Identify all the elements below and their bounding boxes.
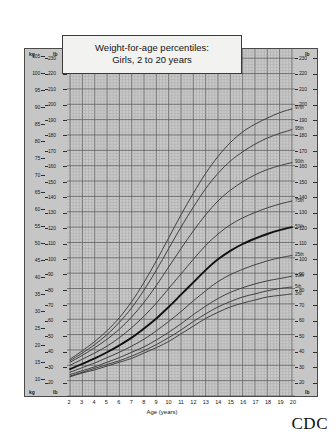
x-tick-4: 4 — [92, 399, 95, 405]
y-axis-unit-kg-top: kg — [29, 52, 35, 57]
y-tick-lb-right-20: 20 — [299, 380, 304, 385]
percentile-label-10th: 10th — [295, 274, 304, 279]
y-tick-kg-80: 80 — [26, 139, 40, 144]
axis-tick-mark — [41, 175, 45, 176]
y-tick-lb-left-110: 110 — [48, 241, 55, 246]
axis-tick-mark — [313, 213, 317, 214]
axis-tick-mark — [313, 259, 317, 260]
axis-tick-mark — [295, 74, 298, 75]
y-axis-unit-lb-left-bottom: lb — [53, 390, 57, 395]
y-tick-kg-40: 40 — [26, 275, 40, 280]
axis-tick-mark — [313, 321, 317, 322]
axis-tick-mark — [313, 228, 317, 229]
axis-tick-mark — [45, 305, 48, 306]
axis-tick-mark — [45, 290, 48, 291]
axis-tick-mark — [45, 336, 48, 337]
y-tick-kg-65: 65 — [26, 190, 40, 195]
axis-tick-mark — [63, 166, 67, 167]
axis-tick-mark — [313, 105, 317, 106]
axis-tick-mark — [45, 367, 48, 368]
y-tick-lb-right-210: 210 — [299, 87, 307, 92]
y-tick-lb-right-70: 70 — [299, 303, 304, 308]
axis-tick-mark — [313, 58, 317, 59]
axis-tick-mark — [45, 383, 48, 384]
axis-tick-mark — [45, 274, 48, 275]
axis-tick-mark — [45, 166, 48, 167]
axis-tick-labels: 1015202530354045505560657075808590951001… — [25, 49, 317, 396]
chart-frame: 1015202530354045505560657075808590951001… — [24, 48, 318, 397]
axis-tick-mark — [295, 367, 298, 368]
axis-tick-mark — [63, 228, 67, 229]
axis-tick-mark — [295, 182, 298, 183]
percentile-label-97th: 97th — [295, 106, 304, 111]
axis-tick-mark — [41, 124, 45, 125]
axis-tick-mark — [63, 336, 67, 337]
y-tick-lb-left-40: 40 — [48, 349, 53, 354]
y-tick-kg-55: 55 — [26, 224, 40, 229]
y-tick-lb-right-150: 150 — [299, 180, 307, 185]
axis-tick-mark — [41, 56, 45, 57]
axis-tick-mark — [41, 328, 45, 329]
x-tick-18: 18 — [265, 399, 271, 405]
x-tick-20: 20 — [290, 399, 296, 405]
y-tick-lb-right-60: 60 — [299, 318, 304, 323]
axis-tick-mark — [295, 305, 298, 306]
percentile-label-5th: 5th — [295, 285, 301, 290]
chart-title-card: Weight-for-age percentiles: Girls, 2 to … — [62, 35, 242, 74]
axis-tick-mark — [41, 226, 45, 227]
y-tick-lb-left-80: 80 — [48, 288, 53, 293]
growth-chart: 1015202530354045505560657075808590951001… — [0, 0, 336, 440]
axis-tick-mark — [63, 105, 67, 106]
axis-tick-mark — [63, 367, 67, 368]
axis-tick-mark — [45, 197, 48, 198]
x-tick-6: 6 — [117, 399, 120, 405]
axis-tick-mark — [295, 244, 298, 245]
x-axis-title: Age (years) — [0, 409, 336, 415]
y-tick-lb-left-150: 150 — [48, 180, 56, 185]
axis-tick-mark — [45, 120, 48, 121]
axis-tick-mark — [63, 321, 67, 322]
y-tick-kg-30: 30 — [26, 309, 40, 314]
y-tick-kg-100: 100 — [26, 71, 40, 76]
y-tick-kg-45: 45 — [26, 258, 40, 263]
x-tick-15: 15 — [228, 399, 234, 405]
axis-tick-mark — [41, 362, 45, 363]
y-tick-lb-left-70: 70 — [48, 303, 53, 308]
y-tick-lb-right-170: 170 — [299, 149, 307, 154]
y-tick-lb-right-220: 220 — [299, 71, 307, 76]
y-tick-lb-left-190: 190 — [48, 118, 56, 123]
axis-tick-mark — [313, 135, 317, 136]
y-tick-lb-left-140: 140 — [48, 195, 56, 200]
y-tick-kg-75: 75 — [26, 156, 40, 161]
chart-title-line2: Girls, 2 to 20 years — [67, 54, 237, 66]
y-tick-lb-left-90: 90 — [48, 272, 53, 277]
y-tick-lb-left-60: 60 — [48, 318, 53, 323]
y-tick-lb-right-160: 160 — [299, 164, 307, 169]
axis-tick-mark — [313, 166, 317, 167]
axis-tick-mark — [41, 277, 45, 278]
x-tick-9: 9 — [155, 399, 158, 405]
axis-tick-mark — [63, 305, 67, 306]
axis-tick-mark — [63, 89, 67, 90]
axis-tick-mark — [63, 151, 67, 152]
x-tick-7: 7 — [130, 399, 133, 405]
y-tick-lb-left-30: 30 — [48, 365, 53, 370]
y-tick-lb-right-130: 130 — [299, 210, 307, 215]
axis-tick-mark — [313, 352, 317, 353]
axis-tick-mark — [63, 135, 67, 136]
axis-tick-mark — [295, 151, 298, 152]
y-tick-lb-right-30: 30 — [299, 365, 304, 370]
axis-tick-mark — [63, 383, 67, 384]
x-tick-11: 11 — [178, 399, 184, 405]
axis-tick-mark — [313, 197, 317, 198]
y-tick-kg-85: 85 — [26, 122, 40, 127]
axis-tick-mark — [313, 336, 317, 337]
axis-tick-mark — [41, 379, 45, 380]
axis-tick-mark — [45, 213, 48, 214]
axis-tick-mark — [295, 135, 298, 136]
percentile-label-3rd: 3rd — [295, 292, 302, 297]
y-tick-lb-left-100: 100 — [48, 257, 56, 262]
y-tick-lb-left-120: 120 — [48, 226, 56, 231]
axis-tick-mark — [295, 89, 298, 90]
axis-tick-mark — [295, 321, 298, 322]
